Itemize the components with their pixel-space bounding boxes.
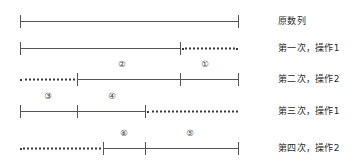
row-pass-1-tick-2: [180, 42, 181, 55]
row-original-solid-full: [20, 21, 238, 22]
row-pass-2-caption: 第二次，操作2: [278, 73, 340, 85]
row-original-tick-1: [20, 15, 21, 28]
row-pass-3-circled-number: ④: [108, 91, 116, 102]
row-pass-1-solid-left: [20, 48, 180, 49]
row-pass-4-circled-number: ⑥: [120, 128, 128, 139]
row-pass-4-dotted-left: [20, 148, 101, 150]
row-pass-3-tick-3: [145, 105, 146, 118]
row-pass-2-tick-2: [180, 73, 181, 86]
row-pass-3-caption: 第三次，操作1: [278, 105, 340, 117]
row-pass-3-dotted-right: [147, 111, 238, 113]
row-original-tick-2: [238, 15, 239, 28]
row-pass-1-dotted-right: [182, 48, 238, 50]
row-pass-4-circled-number: ⑤: [186, 128, 194, 139]
row-pass-4-tick-3: [238, 142, 239, 155]
row-pass-2-circled-number: ②: [118, 59, 126, 70]
row-pass-2-dotted-left: [20, 79, 75, 81]
row-pass-3-solid-left: [20, 111, 145, 112]
row-pass-2-solid-right: [77, 79, 238, 80]
row-pass-4-tick-2: [145, 142, 146, 155]
row-pass-4-solid-right: [103, 148, 238, 149]
row-pass-2-tick-3: [238, 73, 239, 86]
row-pass-3-tick-1: [20, 105, 21, 118]
row-pass-2-circled-number: ①: [201, 59, 209, 70]
row-pass-4-tick-1: [103, 142, 104, 155]
row-pass-3-tick-2: [77, 105, 78, 118]
diagram-canvas: 原数列第一次，操作1②①第二次，操作2③④第三次，操作1⑥⑤第四次，操作2: [0, 0, 354, 168]
row-pass-3-circled-number: ③: [44, 91, 52, 102]
row-pass-4-caption: 第四次，操作2: [278, 142, 340, 154]
row-pass-2-tick-1: [77, 73, 78, 86]
row-pass-1-caption: 第一次，操作1: [278, 42, 340, 54]
row-pass-1-tick-1: [20, 42, 21, 55]
row-original-caption: 原数列: [278, 15, 306, 27]
